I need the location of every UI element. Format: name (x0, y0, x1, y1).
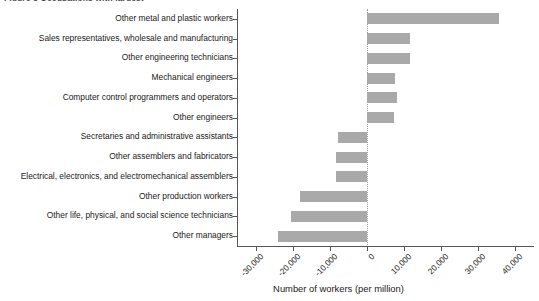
y-axis-tick (233, 58, 238, 59)
x-axis-line (237, 246, 534, 247)
x-axis-tick (515, 246, 516, 251)
x-axis-tick-label: 20,000 (426, 252, 450, 276)
figure-caption-partial: Figure 3 Occupations with largest (4, 0, 144, 1)
figure-bar-chart: Figure 3 Occupations with largest Other … (0, 0, 539, 301)
x-axis-tick (367, 246, 368, 251)
bar (367, 112, 394, 123)
bar (367, 13, 499, 24)
category-label: Electrical, electronics, and electromech… (0, 172, 233, 181)
x-axis-tick-label: -10,000 (313, 252, 339, 278)
x-axis-tick-label: -30,000 (239, 252, 265, 278)
category-label: Computer control programmers and operato… (0, 93, 233, 102)
category-label: Sales representatives, wholesale and man… (0, 34, 233, 43)
x-axis-tick-label: -20,000 (276, 252, 302, 278)
plot-area (237, 9, 534, 246)
category-label: Other life, physical, and social science… (0, 211, 233, 220)
category-label: Other assemblers and fabricators (0, 152, 233, 161)
y-axis-tick (233, 197, 238, 198)
x-axis-tick-label: 0 (367, 252, 377, 262)
bar (367, 73, 395, 84)
category-label: Other production workers (0, 192, 233, 201)
y-axis-tick (233, 137, 238, 138)
category-label: Other engineering technicians (0, 53, 233, 62)
bar (300, 191, 367, 202)
category-axis-labels: Other metal and plastic workersSales rep… (0, 9, 233, 246)
bar (367, 33, 410, 44)
bar (278, 231, 367, 242)
y-axis-tick (233, 39, 238, 40)
bar (367, 53, 410, 64)
bar (336, 152, 367, 163)
x-axis-tick-label: 10,000 (389, 252, 413, 276)
zero-reference-line (367, 9, 368, 247)
x-axis-tick (404, 246, 405, 251)
x-axis-tick (256, 246, 257, 251)
bar (367, 92, 397, 103)
y-axis-tick (233, 216, 238, 217)
x-axis-tick-label: 30,000 (464, 252, 488, 276)
y-axis-tick (233, 118, 238, 119)
category-label: Mechanical engineers (0, 73, 233, 82)
y-axis-spine (237, 9, 238, 246)
bar (336, 171, 367, 182)
y-axis-tick (233, 236, 238, 237)
x-axis-tick (478, 246, 479, 251)
y-axis-tick (233, 157, 238, 158)
y-axis-tick (233, 19, 238, 20)
x-axis-tick-label: 40,000 (501, 252, 525, 276)
x-axis-tick (441, 246, 442, 251)
y-axis-tick (233, 177, 238, 178)
category-label: Secretaries and administrative assistant… (0, 132, 233, 141)
x-axis-tick (330, 246, 331, 251)
category-label: Other engineers (0, 113, 233, 122)
x-axis-tick (293, 246, 294, 251)
bar (291, 211, 367, 222)
category-label: Other managers (0, 231, 233, 240)
x-axis-title-text: Number of workers (per million) (273, 283, 404, 294)
y-axis-tick (233, 98, 238, 99)
y-axis-tick (233, 78, 238, 79)
bar (338, 132, 367, 143)
x-axis-title: Number of workers (per million) (0, 283, 539, 294)
category-label: Other metal and plastic workers (0, 14, 233, 23)
